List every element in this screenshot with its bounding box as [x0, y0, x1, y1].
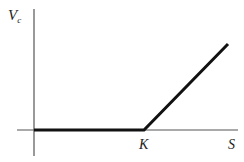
x-axis-label: S: [228, 137, 235, 152]
payoff-diagram: Vc K S: [0, 0, 244, 162]
strike-label: K: [138, 137, 149, 152]
y-axis-label: Vc: [8, 7, 21, 25]
y-axis-subscript: c: [17, 15, 21, 25]
payoff-line: [34, 44, 228, 130]
